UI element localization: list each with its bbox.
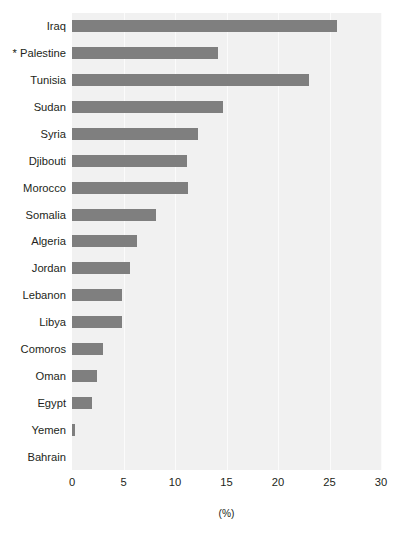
category-label: Bahrain [0,451,66,463]
bar-track [72,336,381,363]
category-label: Jordan [0,262,66,274]
bar [72,47,218,59]
category-label: Somalia [0,209,66,221]
bar-track [72,40,381,67]
bar [72,316,122,328]
category-label: * Palestine [0,47,66,59]
bar-row: * Palestine [0,40,405,67]
bar-chart: Iraq* PalestineTunisiaSudanSyriaDjibouti… [0,0,405,538]
bar [72,101,223,113]
bar-track [72,13,381,40]
bar [72,182,188,194]
bar-track [72,67,381,94]
category-label: Libya [0,316,66,328]
bar [72,397,92,409]
x-axis: 051015202530 [0,470,405,496]
bar [72,155,187,167]
category-label: Algeria [0,235,66,247]
bar [72,20,337,32]
bar [72,262,130,274]
x-tick-label: 5 [104,476,144,488]
category-label: Egypt [0,397,66,409]
category-label: Yemen [0,424,66,436]
bar-track [72,389,381,416]
bar-row: Libya [0,309,405,336]
bar-row: Comoros [0,336,405,363]
bar-row: Somalia [0,201,405,228]
category-label: Comoros [0,343,66,355]
category-label: Syria [0,128,66,140]
bar-row: Sudan [0,94,405,121]
bar-track [72,174,381,201]
bar [72,424,75,436]
bar [72,128,198,140]
bar-row: Yemen [0,416,405,443]
category-label: Lebanon [0,289,66,301]
bar-row: Tunisia [0,67,405,94]
bar-track [72,443,381,470]
bar-track [72,94,381,121]
bar [72,74,309,86]
bar-rows: Iraq* PalestineTunisiaSudanSyriaDjibouti… [0,0,405,457]
bar-track [72,309,381,336]
x-tick-label: 0 [52,476,92,488]
bar-row: Bahrain [0,443,405,470]
x-axis-title: (%) [72,508,381,519]
category-label: Tunisia [0,74,66,86]
category-label: Sudan [0,101,66,113]
bar-row: Jordan [0,255,405,282]
bar-row: Egypt [0,389,405,416]
bar-row: Syria [0,121,405,148]
x-tick-label: 25 [310,476,350,488]
bar-row: Oman [0,362,405,389]
bar [72,370,97,382]
bar [72,343,103,355]
bar-row: Algeria [0,228,405,255]
bar-track [72,416,381,443]
bar [72,235,137,247]
x-tick-label: 15 [207,476,247,488]
bar [72,209,156,221]
bar [72,289,122,301]
x-tick-label: 30 [361,476,401,488]
bar-track [72,121,381,148]
bar-track [72,228,381,255]
category-label: Djibouti [0,155,66,167]
bar-track [72,282,381,309]
category-label: Oman [0,370,66,382]
bar-row: Iraq [0,13,405,40]
category-label: Iraq [0,20,66,32]
category-label: Morocco [0,182,66,194]
bar-row: Morocco [0,174,405,201]
bar-row: Lebanon [0,282,405,309]
bar-row: Djibouti [0,147,405,174]
x-tick-label: 10 [155,476,195,488]
bar-track [72,147,381,174]
bar-track [72,362,381,389]
bar-track [72,255,381,282]
bar-track [72,201,381,228]
x-tick-label: 20 [258,476,298,488]
